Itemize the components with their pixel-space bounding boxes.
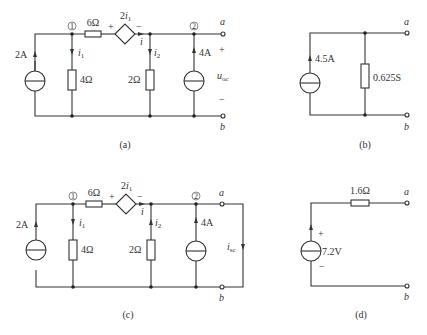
plus-sign: + (109, 191, 115, 202)
arrow-up-icon (33, 51, 37, 57)
dependent-voltage-source-icon (115, 24, 135, 44)
terminal-b (220, 285, 224, 289)
terminal-b (405, 113, 409, 117)
arrow-up-icon (149, 219, 153, 225)
arrow-down-icon (71, 219, 75, 225)
node (363, 31, 367, 35)
terminal-a (405, 31, 409, 35)
terminal-a-label: a (220, 16, 225, 27)
resistor-1.6ohm (351, 200, 369, 206)
terminal-a (405, 201, 409, 205)
circuit-a: 2A 4Ω i1 1 6Ω + − 2i1 i 2Ω i2 2 4A (15, 10, 229, 151)
label-7.2v: 7.2V (322, 246, 343, 257)
label-2ohm: 2Ω (129, 244, 141, 255)
voltage-plus: + (318, 228, 324, 239)
current-source-4a-icon (186, 241, 206, 261)
label-i1: i1 (78, 47, 85, 60)
node (363, 113, 367, 117)
terminal-b (405, 284, 409, 288)
label-4.5a: 4.5A (315, 53, 336, 64)
voltage-minus: − (319, 261, 325, 272)
terminal-a-label: a (404, 16, 409, 27)
caption-b: (b) (359, 139, 371, 151)
label-6ohm: 6Ω (87, 17, 99, 28)
resistor-6ohm (85, 31, 101, 37)
current-source-2a-icon (25, 71, 45, 91)
label-2a: 2A (16, 219, 29, 230)
node (148, 114, 152, 118)
terminal-b (221, 114, 225, 118)
terminal-b-label: b (219, 292, 224, 303)
node (149, 202, 153, 206)
resistor-4ohm (68, 70, 76, 90)
node-2 (194, 202, 198, 206)
label-i: i (140, 36, 143, 47)
resistor-6ohm (86, 201, 102, 207)
label-2a: 2A (15, 49, 28, 60)
terminal-b-label: b (404, 121, 409, 132)
caption-d: (d) (355, 309, 367, 321)
plus-sign: + (108, 21, 114, 32)
minus-sign: − (137, 191, 143, 202)
terminal-a (221, 32, 225, 36)
node-1 (70, 32, 74, 36)
dependent-voltage-source-icon (116, 194, 136, 214)
terminal-a (220, 202, 224, 206)
node-1 (71, 202, 75, 206)
terminal-a-label: a (219, 187, 224, 198)
node (194, 285, 198, 289)
node-2-label: 2 (192, 22, 196, 31)
label-i2: i2 (155, 217, 162, 230)
node (192, 114, 196, 118)
circuit-c: 2A 4Ω i1 1 6Ω + − 2i1 i 2Ω i2 2 4A a b (16, 180, 245, 321)
current-source-2a-icon (26, 240, 46, 260)
node (71, 285, 75, 289)
wire (36, 270, 220, 287)
resistor-2ohm (147, 240, 155, 260)
terminal-b-label: b (404, 291, 409, 302)
wire (311, 261, 405, 286)
voc-minus: − (219, 94, 225, 105)
circuit-diagram: 2A 4Ω i1 1 6Ω + − 2i1 i 2Ω i2 2 4A (0, 0, 427, 335)
arrow-up-icon (192, 47, 196, 53)
conductance-0.625s (361, 64, 369, 88)
resistor-2ohm (146, 70, 154, 90)
node (70, 114, 74, 118)
label-2i1: 2i1 (120, 10, 132, 23)
label-4ohm: 4Ω (81, 244, 93, 255)
label-2ohm: 2Ω (128, 74, 140, 85)
node-1-label: 1 (71, 192, 75, 201)
voc-plus: + (219, 44, 225, 55)
label-4ohm: 4Ω (80, 74, 92, 85)
label-2i1: 2i1 (121, 180, 133, 193)
caption-a: (a) (119, 139, 130, 151)
node (149, 285, 153, 289)
wire (311, 203, 351, 241)
terminal-a-label: a (404, 186, 409, 197)
current-source-4.5a-icon (300, 73, 320, 93)
label-i: i (141, 206, 144, 217)
arrow-up-icon (308, 55, 312, 61)
label-uoc: uoc (217, 70, 229, 83)
label-6ohm: 6Ω (88, 187, 100, 198)
label-isc: isc (227, 241, 236, 254)
label-i2: i2 (154, 47, 161, 60)
terminal-b-label: b (220, 121, 225, 132)
label-i1: i1 (79, 217, 86, 230)
arrow-up-icon (34, 221, 38, 227)
arrow-down-icon (70, 49, 74, 55)
wire (310, 93, 405, 115)
circuit-d: 1.6Ω + 7.2V − a b (d) (301, 185, 409, 321)
caption-c: (c) (122, 309, 133, 321)
node (148, 32, 152, 36)
node-1-label: 1 (70, 22, 74, 31)
label-0.625s: 0.625S (373, 72, 401, 83)
current-source-4a-icon (184, 71, 204, 91)
arrow-up-icon (194, 217, 198, 223)
label-1.6ohm: 1.6Ω (350, 185, 370, 196)
arrow-up-icon (309, 224, 313, 230)
node-2-label: 2 (194, 192, 198, 201)
resistor-4ohm (69, 240, 77, 260)
circuit-b: 4.5A 0.625S a b (b) (300, 16, 409, 151)
arrow-down-icon (241, 244, 245, 250)
